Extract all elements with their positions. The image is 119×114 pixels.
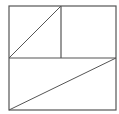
- top-left-diagonal: [9, 6, 61, 58]
- geometry-diagram: [0, 0, 119, 114]
- bottom-diagonal: [9, 58, 116, 110]
